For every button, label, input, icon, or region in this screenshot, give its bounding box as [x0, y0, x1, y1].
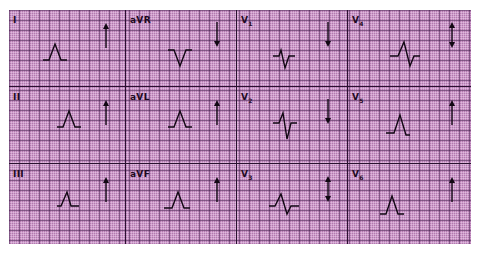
lead-cell-aVL: aVL	[126, 87, 237, 164]
arrow-up-icon	[447, 176, 457, 202]
lead-cell-aVF: aVF	[126, 164, 237, 244]
lead-label: aVF	[130, 169, 150, 181]
ecg-paper: I aVR V1 V4 II aVL	[9, 10, 471, 244]
lead-grid: I aVR V1 V4 II aVL	[9, 10, 471, 244]
arrow-up-icon	[101, 176, 111, 202]
lead-cell-V3: V3	[237, 164, 348, 244]
rs-qrs-icon	[259, 105, 329, 151]
lead-label: V6	[352, 169, 364, 181]
lead-cell-aVR: aVR	[126, 10, 237, 87]
upright-qrs-icon	[31, 28, 101, 74]
biphasic-qrs-icon	[370, 28, 440, 74]
arrow-updown-icon	[323, 176, 333, 202]
lead-label: aVR	[130, 15, 151, 27]
lead-cell-V1: V1	[237, 10, 348, 87]
upright-qrs-icon	[148, 182, 218, 228]
lead-label: V4	[352, 15, 364, 27]
lead-label: V5	[352, 92, 364, 104]
arrow-updown-icon	[447, 22, 457, 48]
lead-label: aVL	[130, 92, 150, 104]
upright-qrs-icon	[31, 182, 101, 228]
arrow-up-icon	[101, 99, 111, 125]
arrow-down-icon	[323, 99, 333, 125]
rs-qrs-icon	[259, 28, 329, 74]
upright-qrs-icon	[148, 105, 218, 151]
lead-cell-II: II	[9, 87, 126, 164]
lead-label: I	[13, 15, 17, 27]
upright-qrs-icon	[370, 182, 440, 228]
lead-label: V2	[241, 92, 253, 104]
arrow-up-icon	[447, 99, 457, 125]
biphasic-qrs-icon	[259, 182, 329, 228]
lead-label: V3	[241, 169, 253, 181]
arrow-up-icon	[101, 22, 111, 48]
lead-cell-I: I	[9, 10, 126, 87]
lead-label: III	[13, 169, 24, 181]
upright-qrs-icon	[31, 105, 101, 151]
upright-qrs-icon	[370, 105, 440, 151]
lead-cell-V6: V6	[348, 164, 471, 244]
lead-cell-III: III	[9, 164, 126, 244]
arrow-down-icon	[323, 22, 333, 48]
lead-label: II	[13, 92, 20, 104]
lead-cell-V5: V5	[348, 87, 471, 164]
lead-label: V1	[241, 15, 253, 27]
inverted-qrs-icon	[148, 28, 218, 74]
lead-cell-V2: V2	[237, 87, 348, 164]
arrow-down-icon	[212, 22, 222, 48]
lead-cell-V4: V4	[348, 10, 471, 87]
arrow-up-icon	[212, 99, 222, 125]
arrow-up-icon	[212, 176, 222, 202]
